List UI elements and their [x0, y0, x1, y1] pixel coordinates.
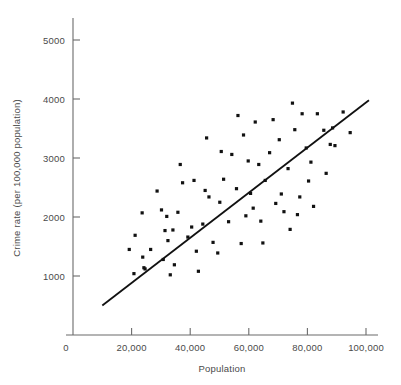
data-point: [216, 251, 219, 254]
data-point: [220, 150, 223, 153]
data-point: [293, 128, 296, 131]
data-point: [176, 211, 179, 214]
plot-area: 10002000300040005000 020,00040,00060,000…: [0, 0, 401, 385]
x-tick-label: 60,000: [234, 342, 264, 353]
data-point: [329, 143, 332, 146]
data-point: [325, 172, 328, 175]
x-axis-ticks: 020,00040,00060,00080,000100,000: [63, 328, 384, 353]
data-point: [268, 151, 271, 154]
data-point: [307, 179, 310, 182]
data-point: [298, 195, 301, 198]
data-point: [195, 250, 198, 253]
data-point: [296, 213, 299, 216]
data-point: [291, 102, 294, 105]
regression-line: [102, 100, 369, 305]
data-point: [252, 207, 255, 210]
y-axis-ticks: 10002000300040005000: [43, 35, 80, 282]
data-points: [128, 102, 352, 277]
data-point: [257, 163, 260, 166]
data-point: [169, 273, 172, 276]
data-point: [247, 159, 250, 162]
data-point: [197, 270, 200, 273]
data-point: [166, 239, 169, 242]
data-point: [163, 229, 166, 232]
data-point: [207, 195, 210, 198]
axes: [66, 18, 378, 335]
data-point: [261, 241, 264, 244]
data-point: [165, 215, 168, 218]
data-point: [222, 178, 225, 181]
data-point: [181, 181, 184, 184]
data-point: [205, 136, 208, 139]
data-point: [259, 220, 262, 223]
data-point: [349, 131, 352, 134]
data-point: [132, 272, 135, 275]
x-tick-label: 100,000: [348, 342, 384, 353]
data-point: [211, 241, 214, 244]
data-point: [141, 256, 144, 259]
data-point: [173, 263, 176, 266]
data-point: [143, 267, 146, 270]
data-point: [244, 214, 247, 217]
y-axis-title: Crime rate (per 100,000 population): [11, 99, 22, 257]
data-point: [218, 201, 221, 204]
data-point: [230, 153, 233, 156]
data-point: [242, 133, 245, 136]
y-tick-label: 5000: [43, 35, 65, 46]
data-point: [254, 120, 257, 123]
x-tick-label: 20,000: [116, 342, 146, 353]
data-point: [312, 205, 315, 208]
data-point: [192, 179, 195, 182]
data-point: [128, 248, 131, 251]
data-point: [289, 228, 292, 231]
data-point: [236, 114, 239, 117]
x-tick-label: 80,000: [292, 342, 322, 353]
data-point: [333, 144, 336, 147]
data-point: [322, 129, 325, 132]
data-point: [190, 225, 193, 228]
x-tick-label: 40,000: [175, 342, 205, 353]
x-axis-title: Population: [199, 363, 246, 374]
y-tick-label: 1000: [43, 271, 65, 282]
data-point: [204, 189, 207, 192]
y-tick-label: 4000: [43, 94, 65, 105]
data-point: [286, 167, 289, 170]
data-point: [274, 202, 277, 205]
data-point: [280, 192, 283, 195]
data-point: [301, 112, 304, 115]
data-point: [141, 211, 144, 214]
data-point: [155, 189, 158, 192]
data-point: [171, 228, 174, 231]
y-tick-label: 2000: [43, 212, 65, 223]
data-point: [179, 163, 182, 166]
data-point: [278, 138, 281, 141]
data-point: [342, 110, 345, 113]
x-tick-label: 0: [63, 342, 68, 353]
scatter-chart: 10002000300040005000 020,00040,00060,000…: [0, 0, 401, 385]
y-tick-label: 3000: [43, 153, 65, 164]
data-point: [316, 112, 319, 115]
data-point: [309, 161, 312, 164]
data-point: [240, 242, 243, 245]
data-point: [134, 234, 137, 237]
data-point: [160, 208, 163, 211]
data-point: [272, 118, 275, 121]
data-point: [227, 220, 230, 223]
data-point: [235, 187, 238, 190]
data-point: [201, 222, 204, 225]
data-point: [149, 248, 152, 251]
data-point: [282, 210, 285, 213]
